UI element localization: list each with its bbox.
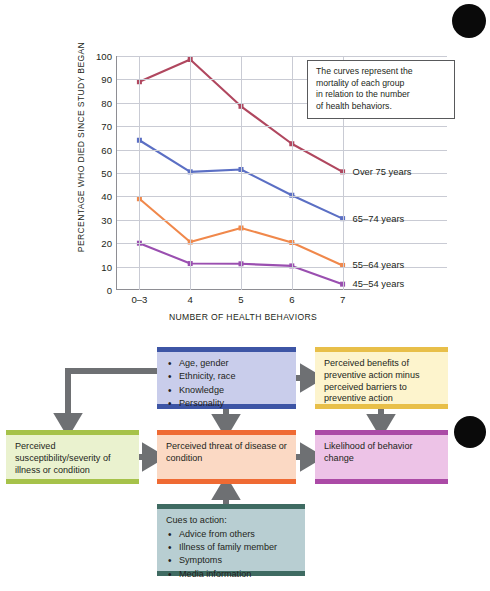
chart-y-tick-label: 80 bbox=[101, 97, 112, 108]
chart-x-tick-label: 4 bbox=[188, 294, 193, 305]
page-edge-artifact-top-icon bbox=[452, 4, 486, 38]
node-lead: Cues to action: bbox=[166, 515, 297, 527]
node-body: Perceived susceptibility/severity of ill… bbox=[6, 435, 139, 479]
health-belief-model-diagram: Age, gender Ethnicity, race Knowledge Pe… bbox=[0, 318, 476, 591]
chart-annotation-line: in relation to the number bbox=[316, 89, 447, 101]
chart-y-tick-label: 20 bbox=[101, 238, 112, 249]
chart-gridline-horizontal bbox=[117, 243, 447, 244]
chart-y-axis-title: PERCENTAGE WHO DIED SINCE STUDY BEGAN bbox=[76, 32, 86, 262]
chart-x-tick-label: 5 bbox=[238, 294, 243, 305]
node-bullet: Age, gender bbox=[179, 358, 288, 370]
chart-gridline-vertical bbox=[241, 56, 242, 290]
chart-y-tick-label: 30 bbox=[101, 214, 112, 225]
node-body: Age, gender Ethnicity, race Knowledge Pe… bbox=[157, 352, 296, 404]
node-foot bbox=[6, 479, 139, 484]
chart-gridline-horizontal bbox=[117, 126, 447, 127]
chart-y-tick-label: 100 bbox=[96, 51, 112, 62]
chart-x-tick-label: 6 bbox=[289, 294, 294, 305]
chart-gridline-vertical bbox=[139, 56, 140, 290]
chart-y-tick-label: 10 bbox=[101, 261, 112, 272]
diagram-node-cues-to-action: Cues to action: Advice from others Illne… bbox=[157, 504, 305, 576]
chart-y-tick-label: 40 bbox=[101, 191, 112, 202]
chart-x-tick-label: 7 bbox=[340, 294, 345, 305]
node-bullet-list: Age, gender Ethnicity, race Knowledge Pe… bbox=[166, 358, 288, 410]
chart-annotation-line: The curves represent the bbox=[316, 66, 447, 78]
chart-series-label: 65–74 years bbox=[353, 213, 405, 224]
node-bullet: Advice from others bbox=[179, 529, 297, 541]
chart-y-tick-label: 50 bbox=[101, 168, 112, 179]
chart-gridline-horizontal bbox=[117, 56, 447, 57]
health-behaviors-line-chart: PERCENTAGE WHO DIED SINCE STUDY BEGAN 01… bbox=[40, 16, 490, 334]
node-body: Likelihood of behavior change bbox=[315, 435, 448, 479]
diagram-node-perceived-threat: Perceived threat of disease or condition bbox=[157, 430, 296, 484]
diagram-node-likelihood-of-change: Likelihood of behavior change bbox=[315, 430, 448, 484]
node-bullet: Media information bbox=[179, 569, 297, 581]
chart-series-label: 55–64 years bbox=[353, 259, 405, 270]
page-edge-artifact-middle-icon bbox=[454, 416, 486, 448]
chart-gridline-horizontal bbox=[117, 196, 447, 197]
node-bullet: Ethnicity, race bbox=[179, 371, 288, 383]
node-foot bbox=[157, 479, 296, 484]
diagram-node-perceived-benefits: Perceived benefits of preventive action … bbox=[315, 347, 448, 409]
node-foot bbox=[315, 479, 448, 484]
chart-gridline-vertical bbox=[190, 56, 191, 290]
node-bullet: Illness of family member bbox=[179, 542, 297, 554]
chart-annotation-line: of health behaviors. bbox=[316, 101, 447, 113]
diagram-node-perceived-susceptibility: Perceived susceptibility/severity of ill… bbox=[6, 430, 139, 484]
node-bullet-list: Advice from others Illness of family mem… bbox=[166, 529, 297, 581]
chart-y-tick-label: 0 bbox=[107, 285, 112, 296]
chart-series-label: 45–54 years bbox=[353, 278, 405, 289]
chart-y-tick-label: 60 bbox=[101, 144, 112, 155]
chart-annotation-box: The curves represent the mortality of ea… bbox=[307, 60, 455, 119]
node-body: Perceived benefits of preventive action … bbox=[315, 352, 448, 404]
node-body: Perceived threat of disease or condition bbox=[157, 435, 296, 479]
diagram-node-demographics: Age, gender Ethnicity, race Knowledge Pe… bbox=[157, 347, 296, 409]
chart-series-label: Over 75 years bbox=[353, 166, 412, 177]
node-bullet: Symptoms bbox=[179, 555, 297, 567]
chart-x-tick-label: 0–3 bbox=[131, 294, 147, 305]
chart-y-tick-label: 70 bbox=[101, 121, 112, 132]
chart-annotation-line: mortality of each group bbox=[316, 78, 447, 90]
chart-gridline-vertical bbox=[292, 56, 293, 290]
chart-gridline-horizontal bbox=[117, 150, 447, 151]
node-bullet: Knowledge bbox=[179, 385, 288, 397]
diagram-arrow-0 bbox=[68, 371, 157, 421]
node-bullet: Personality bbox=[179, 398, 288, 410]
chart-y-tick-label: 90 bbox=[101, 74, 112, 85]
node-body: Cues to action: Advice from others Illne… bbox=[157, 509, 305, 571]
